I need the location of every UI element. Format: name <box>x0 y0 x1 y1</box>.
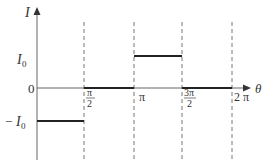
y-axis-label: I <box>24 5 31 20</box>
x-tick-2pi: 2 π <box>234 90 249 104</box>
x-axis-label: θ <box>255 81 262 96</box>
y-axis-arrow-icon <box>34 7 41 15</box>
svg-text:π: π <box>87 87 92 98</box>
y-tick-neg-i0: − I 0 <box>5 114 26 131</box>
svg-text:−: − <box>5 114 12 129</box>
svg-text:2: 2 <box>187 98 192 109</box>
dashed-gridlines <box>84 22 232 160</box>
x-tick-pi: π <box>139 90 145 104</box>
svg-text:2: 2 <box>87 98 92 109</box>
y-tick-i0: I 0 <box>16 52 27 69</box>
x-tick-3pi-half: 3π 2 <box>184 87 196 109</box>
svg-text:0: 0 <box>21 121 26 131</box>
step-function-chart: I θ I 0 0 − I 0 π 2 π 3π 2 2 π <box>0 0 268 165</box>
svg-text:3π: 3π <box>184 87 194 98</box>
svg-text:0: 0 <box>22 59 27 69</box>
x-tick-pi-half: π 2 <box>86 87 95 109</box>
y-tick-zero: 0 <box>28 81 35 96</box>
